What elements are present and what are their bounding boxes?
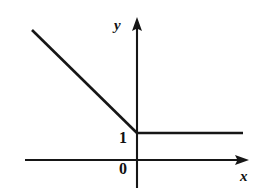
graph-canvas	[0, 0, 267, 195]
y-axis-label: y	[114, 18, 121, 33]
origin-label-0: 0	[119, 161, 127, 177]
x-axis-label: x	[240, 169, 248, 184]
function-descending-ray	[32, 30, 137, 133]
y-tick-label-1: 1	[119, 130, 127, 146]
graph-figure: y x 1 0	[0, 0, 267, 195]
